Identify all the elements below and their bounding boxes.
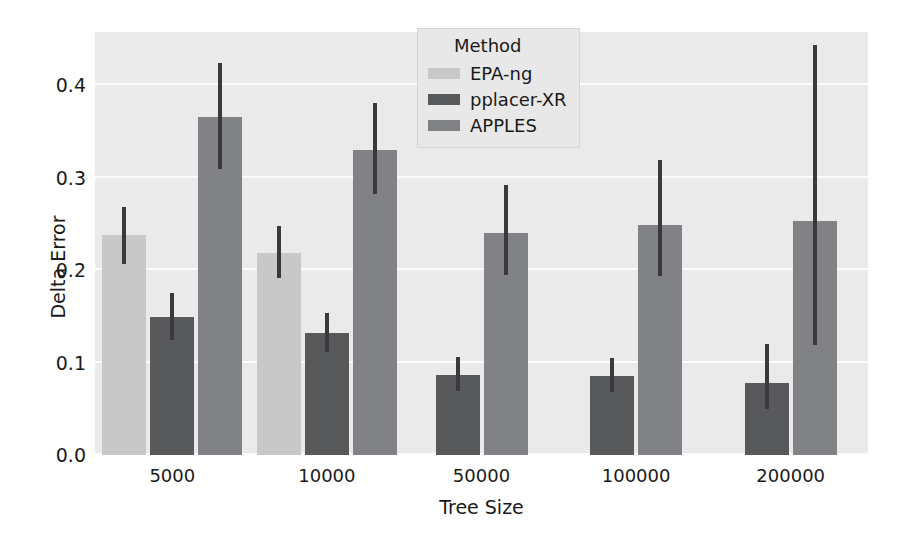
error-bar-apples-200000: [813, 45, 817, 345]
x-axis-title: Tree Size: [95, 496, 868, 518]
error-bar-epa-ng-5000: [122, 207, 126, 263]
error-bar-pplacer-xr-100000: [610, 358, 614, 392]
error-bar-epa-ng-10000: [277, 226, 281, 278]
legend-label: APPLES: [470, 115, 537, 136]
x-tick-label: 10000: [298, 465, 355, 486]
y-tick-label: 0.4: [8, 74, 86, 96]
x-tick-label: 100000: [602, 465, 671, 486]
bar-epa-ng-5000: [102, 235, 146, 455]
error-bar-apples-50000: [504, 185, 508, 275]
bar-chart-figure: Delta Error 0.00.10.20.30.4 500010000500…: [0, 0, 907, 534]
legend-entry-apples[interactable]: APPLES: [428, 112, 569, 138]
error-bar-apples-10000: [373, 103, 377, 194]
error-bar-pplacer-xr-10000: [325, 313, 329, 352]
x-tick-label: 50000: [453, 465, 510, 486]
legend-entries: EPA-ngpplacer-XRAPPLES: [428, 60, 569, 138]
error-bar-pplacer-xr-200000: [765, 344, 769, 409]
bar-apples-10000: [353, 150, 397, 455]
legend-label: pplacer-XR: [470, 89, 567, 110]
legend-entry-pplacer-xr[interactable]: pplacer-XR: [428, 86, 569, 112]
bar-epa-ng-10000: [257, 253, 301, 455]
error-bar-apples-5000: [218, 63, 222, 168]
y-axis-tick-labels: 0.00.10.20.30.4: [0, 0, 86, 534]
legend-title: Method: [428, 35, 569, 56]
legend-swatch-icon: [428, 68, 460, 79]
legend-swatch-icon: [428, 120, 460, 131]
y-tick-label: 0.3: [8, 167, 86, 189]
legend-label: EPA-ng: [470, 63, 532, 84]
y-tick-label: 0.0: [8, 444, 86, 466]
error-bar-apples-100000: [658, 160, 662, 275]
legend-swatch-icon: [428, 94, 460, 105]
legend: Method EPA-ngpplacer-XRAPPLES: [417, 28, 580, 148]
y-tick-label: 0.2: [8, 259, 86, 281]
legend-entry-epa-ng[interactable]: EPA-ng: [428, 60, 569, 86]
y-tick-label: 0.1: [8, 352, 86, 374]
error-bar-pplacer-xr-50000: [456, 357, 460, 391]
error-bar-pplacer-xr-5000: [170, 293, 174, 339]
x-tick-label: 200000: [756, 465, 825, 486]
x-tick-label: 5000: [149, 465, 195, 486]
